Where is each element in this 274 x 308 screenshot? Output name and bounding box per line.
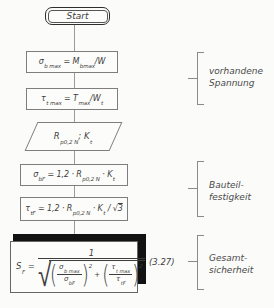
term2-denominator: τtF (114, 275, 128, 286)
fraction-bar (38, 258, 145, 259)
main-fraction: 1 √ ( σb max σbF ) 2 + ( (38, 248, 145, 286)
open-paren-2: ( (102, 262, 109, 286)
term1-numerator: σb max (57, 263, 82, 274)
term1-fraction: σb max σbF (57, 263, 82, 286)
bracket-tick-overall-safety (188, 261, 198, 262)
sqrt-expression: √ ( σb max σbF ) 2 + ( τt max (38, 260, 145, 286)
connector-line-5 (74, 186, 75, 197)
close-paren-2: ) (132, 262, 139, 286)
flowchart-figure: Start σb max = Mbmax/W τt max = Tmax/Wt … (0, 0, 274, 308)
fraction-numerator: 1 (89, 248, 94, 258)
term1-denominator: σbF (62, 275, 77, 286)
term1-exponent: 2 (89, 263, 93, 269)
bracket-existing-stress (197, 52, 204, 105)
formula-sigma-bf: σbF = 1,2 · Rp0,2 N · Kt (33, 170, 115, 181)
formula-material-input: Rp0,2 N; Kt (54, 131, 92, 143)
result-box: SF = 1 √ ( σb max σbF ) 2 + (10, 241, 138, 293)
term2-numerator: τt max (109, 263, 132, 274)
bracket-tick-component-strength (188, 188, 198, 189)
process-box-tau-tf: τtF = 1,2 · Rp0,2 N · Kt / √3 (20, 197, 128, 221)
annotation-line: Bauteil- (209, 180, 251, 192)
input-parallelogram-material: Rp0,2 N; Kt (25, 122, 123, 151)
bracket-component-strength (197, 161, 204, 217)
close-paren-1: ) (82, 262, 89, 286)
equation-lhs: SF = (16, 261, 35, 273)
plus-sign: + (94, 271, 100, 279)
annotation-line: Gesamt- (209, 253, 253, 265)
safety-factor-equation: SF = 1 √ ( σb max σbF ) 2 + (11, 242, 137, 292)
annotation-existing-stress: vorhandene Spannung (209, 66, 263, 89)
equation-number: (3.27) (149, 257, 175, 267)
start-label: Start (48, 10, 108, 23)
bracket-tick-existing-stress (188, 78, 198, 79)
annotation-line: festigkeit (209, 192, 251, 204)
annotation-line: Spannung (209, 78, 263, 90)
connector-line-4 (74, 151, 75, 164)
connector-line-6 (74, 221, 75, 235)
start-node: Start (45, 7, 110, 25)
annotation-line: vorhandene (209, 66, 263, 78)
open-paren-1: ( (50, 262, 57, 286)
process-box-sigma-bf: σbF = 1,2 · Rp0,2 N · Kt (20, 164, 128, 186)
process-box-tau-tmax: τt max = Tmax/Wt (26, 88, 118, 110)
formula-tau-tmax: τt max = Tmax/Wt (41, 94, 103, 105)
annotation-component-strength: Bauteil- festigkeit (209, 180, 251, 203)
annotation-line: sicherheit (209, 265, 253, 277)
annotation-overall-safety: Gesamt- sicherheit (209, 253, 253, 276)
bracket-overall-safety (197, 235, 204, 290)
term2-exponent: 2 (139, 263, 143, 269)
connector-line-2 (74, 73, 75, 88)
radicand: ( σb max σbF ) 2 + ( τt max (49, 260, 145, 286)
formula-sigma-bmax: σb max = Mbmax/W (39, 57, 106, 68)
term2-fraction: τt max τtF (109, 263, 132, 286)
formula-tau-tf: τtF = 1,2 · Rp0,2 N · Kt / √3 (25, 204, 123, 215)
process-box-sigma-bmax: σb max = Mbmax/W (26, 51, 118, 73)
connector-line-1 (74, 25, 75, 52)
